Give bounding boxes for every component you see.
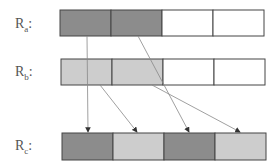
cell-empty [163, 59, 214, 85]
cell-empty [162, 10, 213, 36]
cell-dark [60, 10, 111, 36]
cell-dark [164, 133, 215, 160]
cell-dark [111, 10, 162, 36]
arrow-ra1-to-rc1 [87, 36, 88, 132]
cell-empty [214, 59, 265, 85]
cell-light [113, 133, 164, 160]
cell-light [61, 59, 112, 85]
arrow-rb2-to-rc4 [152, 85, 240, 132]
cell-empty [213, 10, 264, 36]
diagram-canvas [0, 0, 279, 167]
register-rows [60, 10, 266, 160]
register-rb [61, 59, 265, 85]
register-rc [62, 133, 266, 160]
register-ra [60, 10, 264, 36]
cell-dark [62, 133, 113, 160]
cell-light [215, 133, 266, 160]
cell-light [112, 59, 163, 85]
arrow-rb1-to-rc2 [100, 85, 137, 132]
